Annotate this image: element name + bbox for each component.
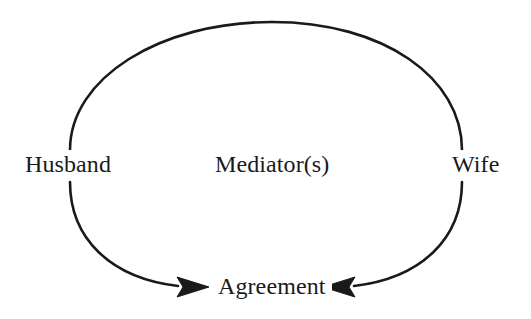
node-label-agreement: Agreement	[212, 272, 332, 300]
mediation-diagram: Husband Mediator(s) Wife Agreement	[0, 0, 531, 319]
node-label-wife: Wife	[446, 150, 505, 178]
arc-lower-left	[70, 182, 178, 286]
arc-upper-right	[272, 22, 462, 150]
arc-lower-right	[354, 182, 462, 286]
arc-upper-left	[70, 22, 272, 150]
node-label-husband: Husband	[19, 150, 117, 178]
arrowhead-to-agreement-left	[177, 277, 209, 297]
node-label-mediators: Mediator(s)	[209, 150, 335, 178]
